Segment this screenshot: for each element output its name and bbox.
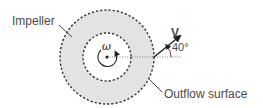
outflow-surface-label: Outflow surface — [164, 87, 248, 101]
impeller-diagram: ω V 40° Impeller Outflow surface — [0, 0, 263, 108]
center-dot — [105, 55, 108, 58]
outflow-leader-line — [149, 79, 162, 92]
omega-label: ω — [102, 40, 111, 53]
velocity-label: V — [171, 26, 179, 40]
angle-arc — [167, 46, 171, 57]
angle-label: 40° — [172, 41, 189, 53]
impeller-label: Impeller — [12, 14, 55, 28]
